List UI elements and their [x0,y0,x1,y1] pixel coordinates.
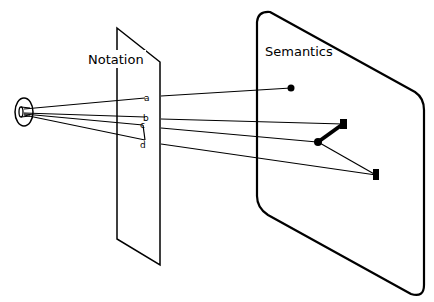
notation-semantics-diagram: Semantics Notation a b c d [0,0,434,302]
semantic-square-lower [373,169,379,180]
notation-label: Notation [88,52,144,67]
rays-to-semantics [161,88,376,175]
ray-label-d: d [140,140,146,150]
ray-label-a: a [144,93,150,103]
semantics-label: Semantics [265,44,333,59]
semantic-square-upper [340,119,347,129]
ray-label-c: c [140,120,145,130]
semantic-dot [288,85,295,92]
semantic-node [314,138,322,146]
bold-relation-edge [318,124,343,142]
eye-icon [15,98,33,126]
